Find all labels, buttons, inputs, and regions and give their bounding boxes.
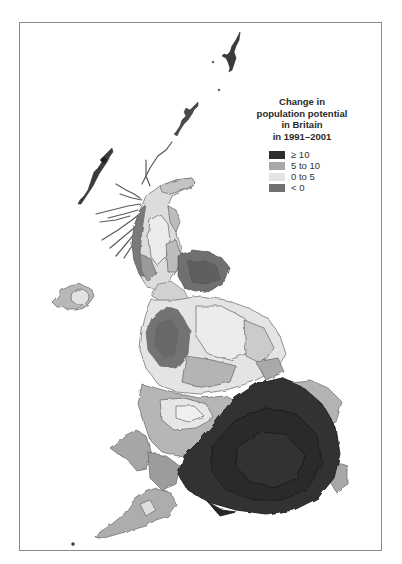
legend-swatch: [269, 173, 285, 181]
legend-label: ≥ 10: [291, 149, 309, 160]
region-northern-ireland: [52, 284, 94, 310]
legend-item: 0 to 5: [269, 171, 354, 182]
legend-title-line: in Britain: [250, 119, 354, 131]
legend-item: ≥ 10: [269, 149, 354, 160]
legend-title-line: in 1991–2001: [250, 131, 354, 143]
legend-label: < 0: [291, 182, 304, 193]
legend-title-line: Change in: [250, 96, 354, 108]
legend-title-line: population potential: [250, 108, 354, 120]
legend-swatch: [269, 151, 285, 159]
legend-item: 5 to 10: [269, 160, 354, 171]
legend-title: Change in population potential in Britai…: [250, 96, 354, 142]
region-north-england: [140, 296, 286, 394]
legend-label: 0 to 5: [291, 171, 315, 182]
legend-items: ≥ 10 5 to 10 0 to 5 < 0: [269, 149, 354, 193]
region-outer-hebrides: [78, 148, 113, 204]
region-south-west: [72, 488, 177, 546]
legend-item: < 0: [269, 182, 354, 193]
legend-swatch: [269, 162, 285, 170]
region-orkney: [174, 102, 198, 136]
legend: Change in population potential in Britai…: [250, 96, 354, 193]
legend-swatch: [269, 184, 285, 192]
cartogram-map: [0, 0, 402, 564]
legend-label: 5 to 10: [291, 160, 320, 171]
region-shetland: [212, 32, 240, 91]
region-north-east: [178, 250, 230, 292]
